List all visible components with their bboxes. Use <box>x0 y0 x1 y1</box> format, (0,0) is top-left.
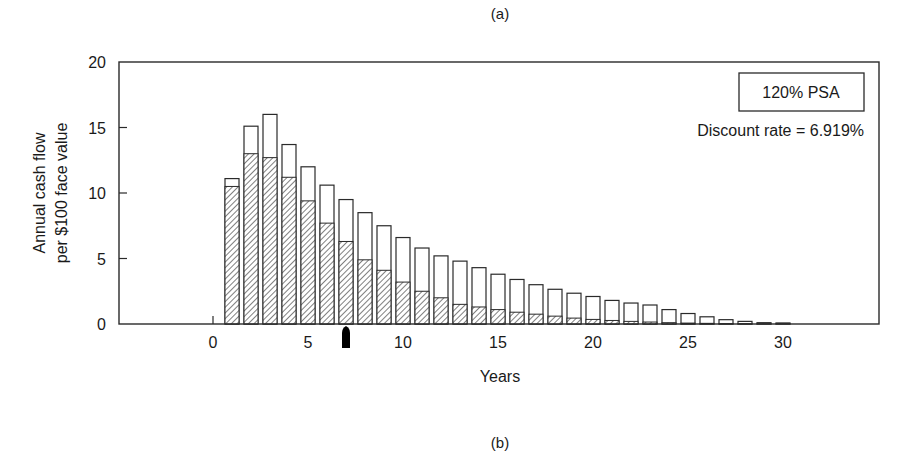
bar <box>301 167 315 324</box>
legend-scenario-label: 120% PSA <box>762 84 840 101</box>
svg-text:per $100 face value: per $100 face value <box>53 123 70 264</box>
bar <box>681 314 695 324</box>
bar <box>662 310 676 324</box>
bar <box>320 185 334 324</box>
y-tick-label: 5 <box>97 251 106 268</box>
x-axis-title: Years <box>480 368 520 385</box>
x-tick-label: 20 <box>584 334 602 351</box>
x-tick-label: 10 <box>394 334 412 351</box>
y-axis: 05101520 <box>88 54 127 333</box>
bar <box>567 293 581 324</box>
bar <box>510 279 524 324</box>
bar <box>643 305 657 324</box>
bar <box>491 274 505 324</box>
bar <box>700 317 714 324</box>
bar-series <box>225 114 790 324</box>
bar <box>263 114 277 324</box>
svg-text:Annual cash flow: Annual cash flow <box>31 132 48 253</box>
bar <box>453 261 467 324</box>
up-arrow-marker-icon <box>342 326 350 348</box>
bar <box>548 289 562 324</box>
legend-discount-rate: Discount rate = 6.919% <box>697 122 864 139</box>
bar <box>434 256 448 324</box>
bar <box>225 179 239 324</box>
y-axis-title: Annual cash flow per $100 face value <box>31 123 70 264</box>
bar <box>586 296 600 324</box>
bar <box>282 145 296 324</box>
bar <box>415 248 429 324</box>
y-tick-label: 0 <box>97 316 106 333</box>
bar <box>358 213 372 324</box>
bar <box>624 303 638 324</box>
caption-b: (b) <box>491 434 509 451</box>
legend: 120% PSA Discount rate = 6.919% <box>697 73 864 139</box>
bar <box>472 268 486 324</box>
x-tick-label: 0 <box>209 334 218 351</box>
bar <box>605 300 619 324</box>
bar <box>339 200 353 324</box>
y-tick-label: 10 <box>88 185 106 202</box>
x-tick-label: 15 <box>489 334 507 351</box>
y-tick-label: 15 <box>88 120 106 137</box>
y-tick-label: 20 <box>88 54 106 71</box>
bar <box>244 126 258 324</box>
x-tick-label: 25 <box>679 334 697 351</box>
x-tick-label: 5 <box>304 334 313 351</box>
bar <box>377 226 391 324</box>
x-tick-label: 30 <box>774 334 792 351</box>
cash-flow-chart: 05101520 051015202530 Years Annual cash … <box>0 0 905 459</box>
bar <box>396 238 410 324</box>
bar <box>529 285 543 324</box>
